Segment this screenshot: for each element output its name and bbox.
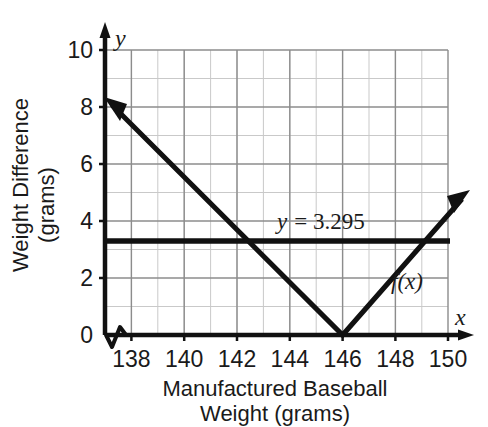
x-tick-label: 140 <box>165 346 203 372</box>
reference-line-label-rhs: = 3.295 <box>294 209 364 234</box>
y-axis-name: y <box>113 25 126 51</box>
chart-svg: y= 3.295 f(x) y x 10 8 6 4 2 0 138 140 1… <box>0 0 488 427</box>
x-axis-title-line2: Weight (grams) <box>200 401 350 426</box>
x-tick-label: 142 <box>218 346 256 372</box>
y-tick-label: 10 <box>67 37 93 63</box>
x-tick-label: 138 <box>112 346 150 372</box>
y-tick-label: 2 <box>80 265 93 291</box>
x-tick-label: 146 <box>323 346 361 372</box>
chart-figure: y= 3.295 f(x) y x 10 8 6 4 2 0 138 140 1… <box>0 0 488 427</box>
y-tick-label: 4 <box>80 208 93 234</box>
fx-series-label: f(x) <box>391 269 423 294</box>
reference-line-label-lhs: y <box>275 209 288 234</box>
y-axis-title-line1: Weight Difference <box>8 98 33 272</box>
x-tick-label: 150 <box>429 346 467 372</box>
y-axis-title-line2: (grams) <box>34 167 59 243</box>
x-tick-label: 148 <box>376 346 414 372</box>
x-tick-labels: 138 140 142 144 146 148 150 <box>112 346 467 372</box>
y-tick-label: 6 <box>80 151 93 177</box>
y-tick-label: 0 <box>80 322 93 348</box>
x-axis-title-line1: Manufactured Baseball <box>162 376 387 401</box>
x-tick-label: 144 <box>271 346 310 372</box>
x-axis-name: x <box>454 304 466 330</box>
y-tick-label: 8 <box>80 94 93 120</box>
